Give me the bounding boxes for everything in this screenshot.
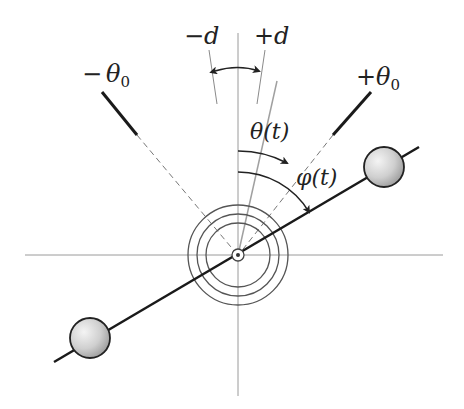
theta-t-label: θ(t) [250,119,289,144]
plus-theta0-symbol: θ [376,63,391,91]
plus-theta0-subscript: 0 [391,76,401,94]
plus-d-label: +d [254,22,289,50]
lower-ball [70,318,110,358]
minus-d-label: −d [184,22,219,50]
phi-t-label: φ(t) [296,165,337,190]
minus-theta0-symbol: θ [106,60,121,88]
minus-theta0-label: −θ0 [82,60,130,91]
d-range-arrow [215,68,259,72]
plus-d-line [257,50,265,104]
minus-theta0-solid [102,92,137,135]
theta-t-arc-arrow [238,151,287,163]
minus-d-line [209,50,217,104]
minus-theta0-dashed [137,135,236,253]
plus-theta0-solid [333,92,371,135]
pivot-dot [236,253,240,257]
minus-theta0-sign: − [82,60,102,88]
upper-ball [364,147,404,187]
pendulum-diagram: −d +d −θ0 +θ0 θ(t) φ(t) [0,0,464,409]
minus-theta0-subscript: 0 [121,73,131,91]
plus-theta0-label: +θ0 [356,63,400,94]
plus-theta0-sign: + [356,63,376,91]
